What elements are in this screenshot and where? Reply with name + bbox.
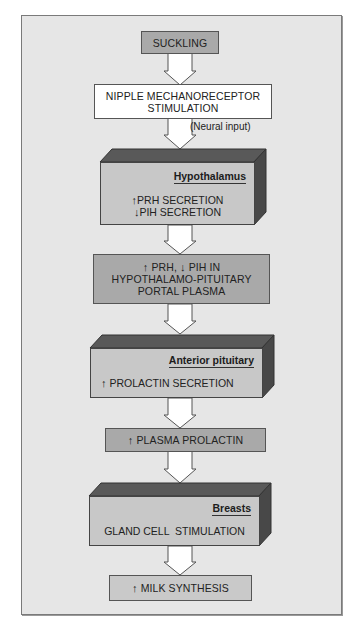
breasts-label: Breasts	[212, 502, 251, 516]
suckling-box: SUCKLING	[141, 31, 219, 54]
plasma-prolactin-box: ↑ PLASMA PROLACTIN	[105, 428, 266, 452]
up-arrow-icon: ↑	[128, 434, 134, 446]
anterior-pituitary-block: Anterior pituitary ↑ PROLACTIN SECRETION	[90, 348, 263, 398]
gland-cell-line: GLAND CELL STIMULATION	[90, 525, 259, 537]
pih-secretion-text: PIH SECRETION	[139, 206, 221, 218]
hypothalamus-side-face	[254, 149, 266, 225]
nipple-stimulation-box: NIPPLE MECHANORECEPTOR STIMULATION	[94, 84, 272, 119]
milk-synthesis-text: MILK SYNTHESIS	[141, 582, 229, 594]
pituitary-top-face	[90, 335, 274, 348]
portal-plasma-box: ↑ PRH, ↓ PIH IN HYPOTHALAMO-PITUITARY PO…	[93, 254, 270, 304]
prh-secretion-line: ↑PRH SECRETION	[101, 194, 254, 206]
up-arrow-icon: ↑	[143, 261, 149, 273]
down-arrow-icon	[164, 546, 196, 575]
portal-line2: HYPOTHALAMO-PITUITARY	[112, 273, 252, 285]
suckling-text: SUCKLING	[153, 37, 207, 49]
prolactin-secretion-line: ↑ PROLACTIN SECRETION	[101, 377, 262, 389]
neural-input-label: (Neural input)	[190, 121, 251, 132]
hypothalamus-block: Hypothalamus ↑PRH SECRETION ↓PIH SECRETI…	[100, 162, 255, 225]
breasts-block: Breasts GLAND CELL STIMULATION	[89, 496, 260, 546]
plasma-prolactin-text: PLASMA PROLACTIN	[137, 434, 244, 446]
up-arrow-icon: ↑	[101, 377, 107, 389]
prolactin-secretion-text: PROLACTIN SECRETION	[109, 377, 233, 389]
prh-secretion-text: PRH SECRETION	[137, 194, 223, 206]
down-arrow-icon	[164, 53, 196, 85]
down-arrow-icon	[164, 398, 196, 428]
pih-in-text: PIH IN	[189, 261, 221, 273]
prh-text: PRH,	[151, 261, 177, 273]
nipple-line2: STIMULATION	[148, 102, 219, 114]
nipple-line1: NIPPLE MECHANORECEPTOR	[106, 90, 260, 102]
pih-secretion-line: ↓PIH SECRETION	[101, 206, 254, 218]
down-arrow-icon	[164, 451, 196, 483]
down-arrow-icon: ↓	[180, 261, 186, 273]
anterior-pituitary-label: Anterior pituitary	[169, 354, 254, 368]
portal-line3: PORTAL PLASMA	[138, 285, 225, 297]
down-arrow-icon	[164, 304, 196, 334]
up-arrow-icon: ↑	[132, 582, 138, 594]
portal-line1: ↑ PRH, ↓ PIH IN	[143, 261, 220, 273]
down-arrow-icon	[164, 225, 196, 254]
hypothalamus-top-face	[100, 149, 266, 162]
milk-synthesis-box: ↑ MILK SYNTHESIS	[109, 575, 252, 601]
hypothalamus-label: Hypothalamus	[174, 170, 246, 184]
breasts-top-face	[89, 483, 271, 496]
